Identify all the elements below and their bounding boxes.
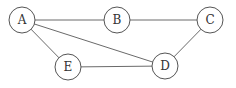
nodes-group: ABCDE: [9, 7, 223, 80]
node-e: E: [55, 54, 81, 80]
node-a: A: [9, 7, 35, 33]
node-label: D: [160, 59, 170, 73]
edge-a-d: [22, 20, 165, 66]
node-label: C: [205, 13, 214, 27]
node-d: D: [152, 53, 178, 79]
edge-e-d: [68, 66, 165, 67]
node-label: A: [17, 13, 27, 27]
node-c: C: [197, 7, 223, 33]
graph-diagram: ABCDE: [0, 0, 236, 88]
node-label: B: [113, 13, 122, 27]
node-label: E: [64, 60, 73, 74]
node-b: B: [104, 7, 130, 33]
